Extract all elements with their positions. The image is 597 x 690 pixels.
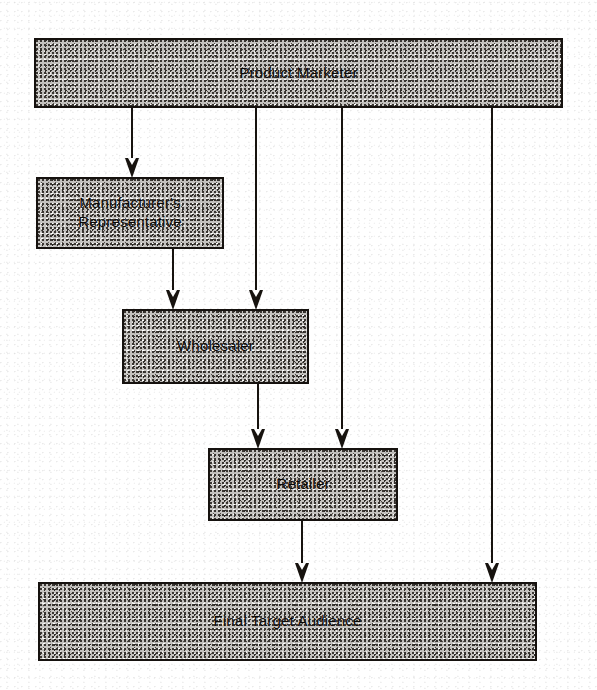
connector-line-wholesaler-to-retailer xyxy=(257,384,259,432)
node-label-retailer: Retailer xyxy=(276,475,329,494)
node-product-marketer[interactable]: Product Marketer xyxy=(34,38,563,108)
node-label-manufacturers-representative: Manufacturer's Representative xyxy=(78,194,182,232)
flowchart-canvas: Product Marketer Manufacturer's Represen… xyxy=(0,0,597,690)
connector-line-marketer-to-retailer xyxy=(341,108,343,432)
arrowhead-icon-marketer-to-manufacturers-rep xyxy=(125,158,139,178)
arrowhead-icon-retailer-to-final-target-audience xyxy=(295,563,309,583)
node-label-final-target-audience: Final Target Audience xyxy=(213,612,361,631)
arrowhead-icon-manufacturers-rep-to-wholesaler xyxy=(166,290,180,310)
node-label-product-marketer: Product Marketer xyxy=(239,64,357,83)
connector-line-retailer-to-final-target-audience xyxy=(301,521,303,566)
arrowhead-icon-marketer-to-retailer xyxy=(335,429,349,449)
arrowhead-icon-wholesaler-to-retailer xyxy=(251,429,265,449)
node-label-wholesaler: Wholesaler xyxy=(177,337,254,356)
node-final-target-audience[interactable]: Final Target Audience xyxy=(38,582,537,661)
node-retailer[interactable]: Retailer xyxy=(208,448,398,521)
connector-line-marketer-to-wholesaler xyxy=(255,108,257,293)
arrowhead-icon-marketer-to-final-target-audience xyxy=(485,563,499,583)
connector-line-manufacturers-rep-to-wholesaler xyxy=(172,249,174,293)
connector-line-marketer-to-final-target-audience xyxy=(491,108,493,566)
node-wholesaler[interactable]: Wholesaler xyxy=(122,309,309,384)
node-manufacturers-representative[interactable]: Manufacturer's Representative xyxy=(36,177,224,249)
arrowhead-icon-marketer-to-wholesaler xyxy=(249,290,263,310)
connector-line-marketer-to-manufacturers-rep xyxy=(131,108,133,161)
